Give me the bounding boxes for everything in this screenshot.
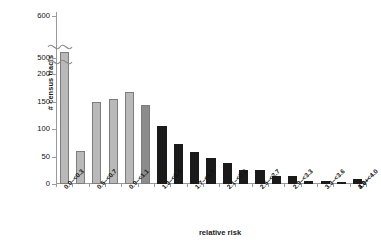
y-tick-label: 0 — [46, 180, 50, 188]
histogram-chart: # census tracts 050100150200500600 0.0–<… — [0, 0, 381, 245]
y-tick-label: 100 — [37, 125, 50, 133]
x-axis-title: relative risk — [150, 228, 290, 237]
y-tick-label: 500 — [37, 54, 50, 62]
y-tick-label: 150 — [37, 98, 50, 106]
bar — [60, 52, 69, 184]
bar — [157, 126, 166, 184]
bar — [92, 102, 101, 185]
x-axis-tick-labels: 0.0–<0.30.5–<0.70.9–<1.11.3–<1.51.7–<1.9… — [56, 186, 366, 232]
plot-area: 050100150200500600 — [56, 12, 366, 184]
y-tick-label: 50 — [42, 153, 50, 161]
y-tick-label: 200 — [37, 70, 50, 78]
y-tick-label: 600 — [37, 12, 50, 20]
bar — [337, 182, 346, 184]
y-axis-title: # census tracts — [46, 35, 55, 131]
bar — [125, 92, 134, 184]
bar-series — [56, 12, 366, 184]
